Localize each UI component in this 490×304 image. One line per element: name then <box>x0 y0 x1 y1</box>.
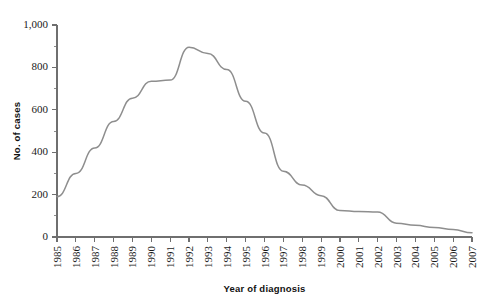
y-tick-label: 1,000 <box>23 18 48 30</box>
y-tick-label: 800 <box>32 60 49 72</box>
x-tick-label: 1989 <box>126 246 138 269</box>
x-tick-label: 2007 <box>466 246 478 269</box>
x-axis-tick-labels: 1985198619871988198919901991199219931994… <box>51 246 478 269</box>
x-tick-label: 1985 <box>51 246 63 269</box>
x-tick-label: 1994 <box>221 246 233 269</box>
x-tick-label: 1992 <box>183 246 195 268</box>
x-tick-label: 1993 <box>202 246 214 269</box>
x-tick-label: 2001 <box>353 246 365 268</box>
x-tick-label: 2005 <box>428 246 440 269</box>
x-tick-label: 1999 <box>315 246 327 269</box>
x-tick-label: 1995 <box>240 246 252 269</box>
y-tick-label: 600 <box>32 103 49 115</box>
y-tick-label: 400 <box>32 145 49 157</box>
x-axis-ticks <box>57 237 472 242</box>
x-tick-label: 1991 <box>164 246 176 268</box>
y-tick-label: 0 <box>43 230 49 242</box>
x-axis-title: Year of diagnosis <box>223 283 305 294</box>
y-axis-title: No. of cases <box>11 102 22 160</box>
x-tick-label: 1998 <box>296 246 308 269</box>
x-tick-label: 2006 <box>447 246 459 269</box>
x-tick-label: 2000 <box>334 246 346 269</box>
x-tick-label: 1986 <box>70 246 82 269</box>
y-axis-tick-labels: 02004006008001,000 <box>23 18 48 242</box>
x-tick-label: 1987 <box>89 246 101 269</box>
x-tick-label: 1997 <box>277 246 289 269</box>
x-tick-label: 1996 <box>259 246 271 269</box>
x-tick-label: 2004 <box>409 246 421 269</box>
x-tick-label: 1988 <box>108 246 120 269</box>
x-tick-label: 2002 <box>372 246 384 268</box>
x-tick-label: 1990 <box>145 246 157 269</box>
chart-container: 02004006008001,000 198519861987198819891… <box>0 0 490 304</box>
line-chart: 02004006008001,000 198519861987198819891… <box>0 0 490 304</box>
data-series-line <box>57 47 472 233</box>
x-tick-label: 2003 <box>391 246 403 269</box>
y-tick-label: 200 <box>32 188 49 200</box>
